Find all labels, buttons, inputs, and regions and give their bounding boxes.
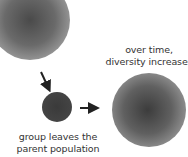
label-line: group leaves the <box>6 131 110 143</box>
new-population-circle <box>112 73 186 147</box>
label-line: parent population <box>6 143 110 155</box>
group-leaves-label: group leaves the parent population <box>6 131 110 155</box>
founder-group-circle <box>42 92 72 122</box>
down-arrow-icon <box>41 72 48 87</box>
diversity-increases-label: over time, diversity increases <box>100 44 188 68</box>
label-line: over time, <box>100 44 188 56</box>
label-line: diversity increases <box>100 56 188 68</box>
